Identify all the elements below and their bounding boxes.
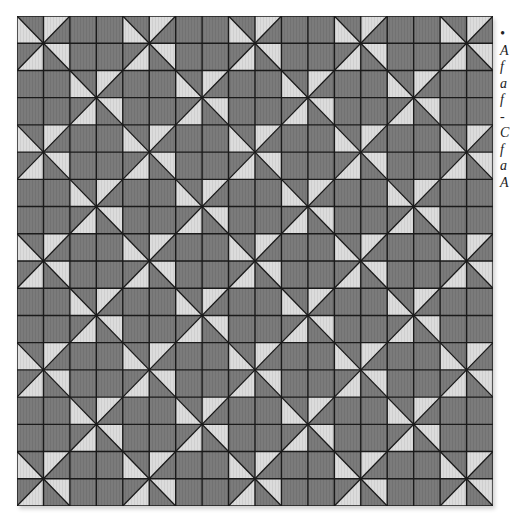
- side-text-line: f: [500, 92, 510, 109]
- side-text-line: A: [500, 175, 510, 192]
- side-text-line: A: [500, 43, 510, 60]
- side-text-line: f: [500, 142, 510, 159]
- pinwheel-quilt-pattern: [17, 16, 493, 506]
- side-text-line: -: [500, 109, 510, 126]
- side-text-line: •: [500, 26, 510, 43]
- side-text-line: C: [500, 125, 510, 142]
- clipped-side-text: • A f a f - C f a A: [500, 26, 510, 191]
- side-text-line: a: [500, 76, 510, 93]
- side-text-line: f: [500, 59, 510, 76]
- side-text-line: a: [500, 158, 510, 175]
